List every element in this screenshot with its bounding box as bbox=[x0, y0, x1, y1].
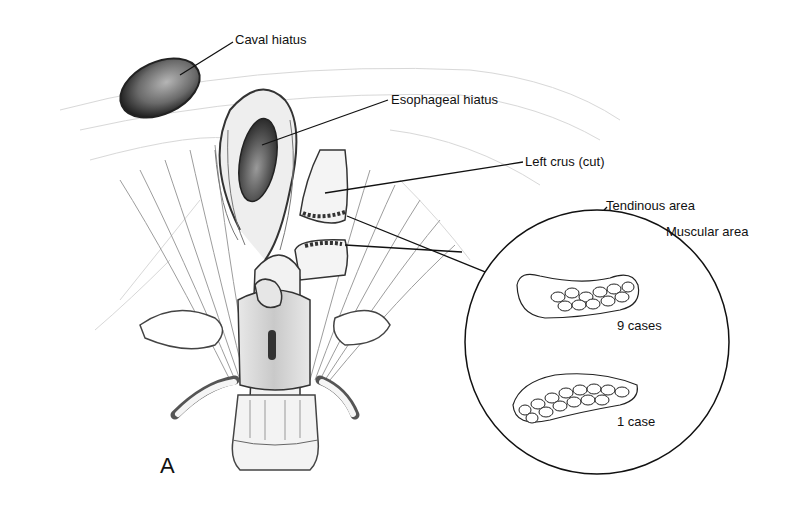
spinal-opening bbox=[268, 330, 276, 360]
label-9-cases: 9 cases bbox=[617, 319, 662, 332]
inset-magnifier bbox=[465, 210, 729, 474]
right-transverse-process bbox=[334, 310, 390, 345]
label-muscular-area: Muscular area bbox=[666, 225, 748, 238]
panel-letter: A bbox=[160, 455, 175, 477]
left-crus-upper-stump bbox=[300, 150, 348, 223]
left-crus-lower-stump bbox=[295, 240, 348, 280]
lower-vertebra bbox=[232, 395, 318, 470]
label-tendinous-area: Tendinous area bbox=[606, 199, 695, 212]
diaphragm-illustration bbox=[0, 0, 801, 509]
label-left-crus: Left crus (cut) bbox=[525, 155, 604, 168]
label-esophageal-hiatus: Esophageal hiatus bbox=[391, 93, 498, 106]
left-transverse-process bbox=[140, 310, 223, 348]
label-1-case: 1 case bbox=[617, 415, 655, 428]
label-caval-hiatus: Caval hiatus bbox=[235, 33, 307, 46]
caval-hiatus-opening bbox=[111, 47, 209, 130]
